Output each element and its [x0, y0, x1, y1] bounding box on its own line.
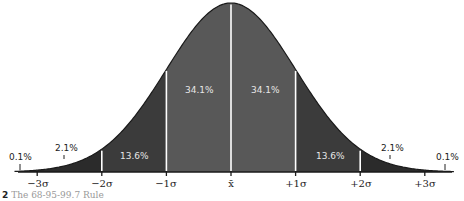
caption-text: The 68-95-99.7 Rule	[11, 190, 104, 200]
axis-label-plus1: +1σ	[285, 178, 307, 189]
label-mid-right: 13.6%	[316, 151, 345, 161]
axis-label-minus3: −3σ	[27, 178, 49, 189]
label-inner-left: 34.1%	[185, 85, 214, 95]
normal-distribution-chart: 0.1% 2.1% 13.6% 34.1% 34.1% 13.6% 2.1% 0…	[0, 0, 464, 190]
axis-label-mean: x̄	[228, 178, 234, 189]
label-tail-left: 0.1%	[9, 152, 32, 162]
figure-caption: 2 The 68-95-99.7 Rule	[2, 190, 104, 201]
label-outer-left: 2.1%	[55, 143, 78, 153]
axis-label-minus1: −1σ	[155, 178, 177, 189]
label-inner-right: 34.1%	[251, 85, 280, 95]
label-mid-left: 13.6%	[120, 151, 149, 161]
axis-label-minus2: −2σ	[91, 178, 113, 189]
label-tail-right: 0.1%	[436, 152, 459, 162]
caption-number: 2	[2, 190, 8, 200]
axis-label-plus3: +3σ	[414, 178, 436, 189]
axis-label-plus2: +2σ	[350, 178, 372, 189]
label-outer-right: 2.1%	[381, 143, 404, 153]
